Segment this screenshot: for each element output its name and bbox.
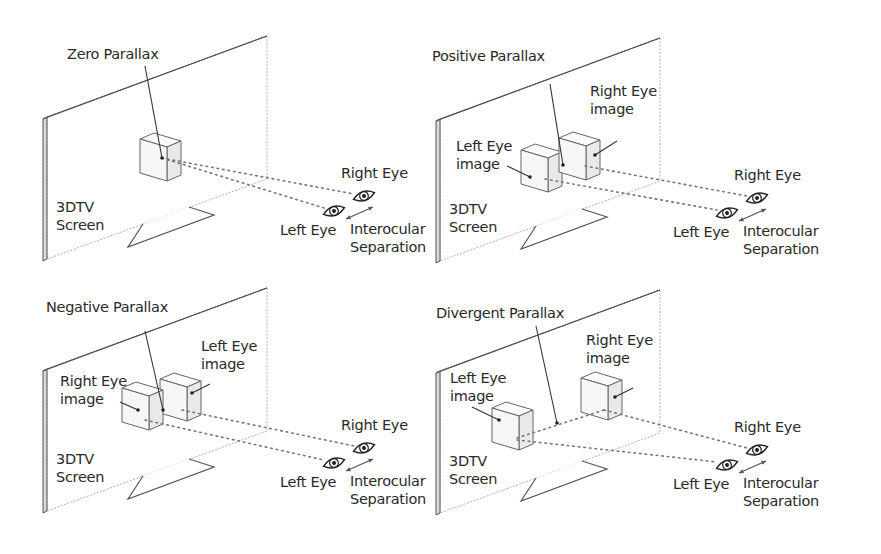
cube-front-face	[140, 139, 167, 181]
panel-divergent: 3DTVScreenDivergent ParallaxLeft Eyeimag…	[436, 290, 819, 515]
screen-label-text-line: 3DTV	[449, 453, 487, 469]
panel-negative: 3DTVScreenNegative ParallaxRight Eyeimag…	[43, 288, 426, 513]
panel-zero: 3DTVScreenZero ParallaxRight EyeLeft Eye…	[43, 36, 426, 261]
cube-side-face	[519, 410, 533, 450]
interocular-separation-label-line: Separation	[350, 491, 426, 507]
right-eye-label: Right Eye	[341, 165, 408, 181]
screen-label-text-line: 3DTV	[449, 201, 487, 217]
screen-left-edge	[43, 369, 47, 513]
left-eye-image-leader-dot	[497, 418, 501, 422]
left-eye-image-label-line: Left Eye	[201, 338, 258, 354]
cube-left-eye-image	[492, 402, 533, 450]
screen-label-text-line: 3DTV	[56, 451, 94, 467]
left-eye-icon	[715, 457, 739, 472]
right-eye-image-leader-dot	[593, 153, 597, 157]
screen-left-edge	[436, 119, 440, 263]
left-eye-label: Left Eye	[673, 476, 730, 492]
right-eye-label: Right Eye	[734, 167, 801, 183]
cube-left-eye-image	[521, 144, 562, 192]
screen-label-text-line: Screen	[449, 471, 497, 487]
interocular-separation-label-line: Interocular	[350, 221, 426, 237]
right-eye-image-label-line: Right Eye	[60, 373, 127, 389]
left-eye-icon	[322, 203, 346, 218]
cube-side-face	[187, 381, 201, 421]
panel-title: Divergent Parallax	[436, 305, 565, 321]
right-eye-icon	[352, 188, 376, 203]
left-eye-label: Left Eye	[673, 224, 730, 240]
divergent-parallax-leader-dot	[555, 421, 559, 425]
screen-label-text-line: 3DTV	[56, 199, 94, 215]
panel-title: Positive Parallax	[432, 48, 545, 64]
cube-front-face	[521, 150, 548, 192]
cube-front-face	[581, 378, 608, 420]
screen-label-text-line: Screen	[56, 217, 104, 233]
right-eye-icon	[352, 440, 376, 455]
right-eye-label: Right Eye	[734, 419, 801, 435]
left-eye-label: Left Eye	[280, 222, 337, 238]
right-eye-image-label-line: image	[60, 391, 104, 407]
left-eye-image-label-line: image	[450, 388, 494, 404]
interocular-separation-label: InterocularSeparation	[743, 223, 819, 257]
interocular-separation-label: InterocularSeparation	[350, 473, 426, 507]
zero-parallax-leader-dot	[160, 156, 164, 160]
screen-label-text-line: Screen	[56, 469, 104, 485]
right-eye-image-label-line: Right Eye	[586, 332, 653, 348]
panel-title: Negative Parallax	[46, 299, 169, 315]
interocular-separation-label-line: Separation	[743, 493, 819, 509]
right-eye-icon	[745, 442, 769, 457]
positive-parallax-leader-dot	[561, 163, 565, 167]
screen-label-text-line: Screen	[449, 219, 497, 235]
right-eye-image-label-line: image	[586, 350, 630, 366]
cube-front-face	[492, 408, 519, 450]
left-eye-image-label-line: Left Eye	[450, 370, 507, 386]
interocular-separation-label-line: Separation	[350, 239, 426, 255]
left-eye-image-label-line: image	[456, 156, 500, 172]
right-eye-image-leader-dot	[613, 395, 617, 399]
right-eye-image-label-line: image	[590, 101, 634, 117]
cube-zero	[140, 133, 181, 181]
interocular-separation-label-line: Interocular	[743, 475, 819, 491]
cube-front-face	[160, 379, 187, 421]
panel-positive: 3DTVScreenPositive ParallaxLeft Eyeimage…	[432, 38, 819, 263]
left-eye-icon	[715, 205, 739, 220]
cube-left-eye-image	[160, 373, 201, 421]
right-eye-label: Right Eye	[341, 417, 408, 433]
right-eye-icon	[745, 190, 769, 205]
panel-title: Zero Parallax	[67, 46, 159, 62]
screen-left-edge	[43, 117, 47, 261]
interocular-separation-label-line: Interocular	[743, 223, 819, 239]
interocular-separation-arrow	[346, 459, 373, 471]
interocular-separation-label-line: Interocular	[350, 473, 426, 489]
interocular-separation-arrow	[739, 461, 766, 473]
right-eye-image-label-line: Right Eye	[590, 83, 657, 99]
left-eye-image-leader-dot	[528, 175, 532, 179]
cube-side-face	[586, 140, 600, 180]
negative-parallax-leader-dot	[161, 408, 165, 412]
interocular-separation-label-line: Separation	[743, 241, 819, 257]
left-eye-label: Left Eye	[280, 474, 337, 490]
screen-left-edge	[436, 371, 440, 515]
cube-front-face	[559, 138, 586, 180]
left-eye-image-label-line: image	[201, 356, 245, 372]
interocular-separation-label: InterocularSeparation	[350, 221, 426, 255]
left-eye-image-leader-dot	[190, 391, 194, 395]
right-eye-image-leader-dot	[136, 408, 140, 412]
interocular-separation-arrow	[739, 209, 766, 221]
interocular-separation-arrow	[346, 207, 373, 219]
parallax-diagram: 3DTVScreenZero ParallaxRight EyeLeft Eye…	[0, 0, 881, 554]
interocular-separation-label: InterocularSeparation	[743, 475, 819, 509]
left-eye-icon	[322, 455, 346, 470]
left-eye-image-label-line: Left Eye	[456, 138, 513, 154]
